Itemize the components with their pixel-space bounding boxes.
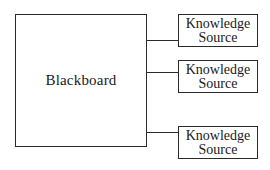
- blackboard-box: Blackboard: [15, 14, 147, 147]
- connector-line-1: [146, 40, 178, 41]
- blackboard-label: Blackboard: [45, 72, 116, 89]
- knowledge-source-box-1: Knowledge Source: [178, 14, 258, 47]
- knowledge-source-label-line1: Knowledge: [186, 17, 251, 31]
- connector-line-2: [146, 72, 178, 73]
- knowledge-source-label-line2: Source: [199, 77, 238, 91]
- knowledge-source-label-line2: Source: [199, 143, 238, 157]
- knowledge-source-box-3: Knowledge Source: [178, 126, 258, 159]
- knowledge-source-label-line1: Knowledge: [186, 129, 251, 143]
- connector-line-3: [146, 132, 178, 133]
- knowledge-source-box-2: Knowledge Source: [178, 60, 258, 93]
- knowledge-source-label-line1: Knowledge: [186, 63, 251, 77]
- knowledge-source-label-line2: Source: [199, 31, 238, 45]
